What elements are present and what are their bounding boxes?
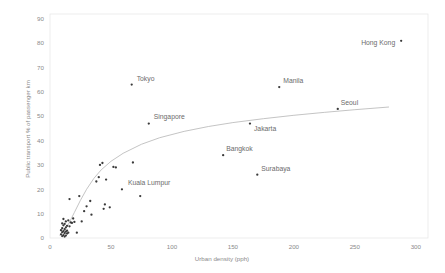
data-point xyxy=(61,227,63,229)
data-point xyxy=(63,223,65,225)
data-point xyxy=(63,228,65,230)
data-point xyxy=(109,206,111,208)
data-point xyxy=(81,220,83,222)
x-tick-label: 250 xyxy=(350,243,361,250)
data-point xyxy=(66,230,68,232)
data-point xyxy=(89,200,91,202)
y-tick-label: 60 xyxy=(37,88,44,95)
x-tick-label: 150 xyxy=(228,243,239,250)
data-point xyxy=(62,218,64,220)
data-point-singapore xyxy=(148,122,150,124)
y-axis-title: Public transport % of passenger km xyxy=(24,80,31,178)
data-point xyxy=(68,198,70,200)
y-tick-label: 20 xyxy=(37,186,44,193)
data-point xyxy=(99,164,101,166)
data-point xyxy=(132,161,134,163)
y-tick-label: 40 xyxy=(37,137,44,144)
point-label-kuala-lumpur: Kuala Lumpur xyxy=(128,179,171,187)
data-point xyxy=(85,205,87,207)
data-point xyxy=(65,234,67,236)
point-label-singapore: Singapore xyxy=(154,113,185,121)
data-point xyxy=(62,230,64,232)
x-tick-label: 200 xyxy=(289,243,300,250)
data-point xyxy=(67,219,69,221)
data-point xyxy=(71,222,73,224)
data-point xyxy=(115,166,117,168)
y-tick-label: 50 xyxy=(37,112,44,119)
data-point-surabaya xyxy=(256,174,258,176)
data-point-kuala-lumpur xyxy=(121,188,123,190)
x-tick-label: 0 xyxy=(48,243,52,250)
data-point xyxy=(61,222,63,224)
data-point xyxy=(78,195,80,197)
data-point-tokyo xyxy=(131,83,133,85)
y-tick-label: 80 xyxy=(37,39,44,46)
data-point xyxy=(60,229,62,231)
data-point xyxy=(83,210,85,212)
data-point xyxy=(104,203,106,205)
data-point xyxy=(66,225,68,227)
data-point-seoul xyxy=(337,108,339,110)
point-label-hong-kong: Hong Kong xyxy=(361,39,395,47)
data-point xyxy=(68,225,70,227)
point-label-surabaya: Surabaya xyxy=(261,165,290,173)
chart-figure: 0102030405060708090 050100150200250300 H… xyxy=(0,0,445,273)
y-tick-label: 10 xyxy=(37,210,44,217)
data-point xyxy=(65,220,67,222)
data-point xyxy=(105,178,107,180)
y-tick-label: 70 xyxy=(37,64,44,71)
data-point-hong-kong xyxy=(400,40,402,42)
point-label-manila: Manila xyxy=(283,77,303,84)
y-tick-label: 30 xyxy=(37,161,44,168)
data-point xyxy=(90,213,92,215)
data-point xyxy=(139,195,141,197)
data-point xyxy=(76,231,78,233)
x-tick-label: 300 xyxy=(411,243,422,250)
data-point xyxy=(95,180,97,182)
scatter-plot-canvas: 0102030405060708090 050100150200250300 H… xyxy=(0,0,445,273)
x-axis-title: Urban density (pph) xyxy=(195,255,249,262)
data-point-jakarta xyxy=(249,122,251,124)
data-point xyxy=(101,162,103,164)
y-tick-label: 0 xyxy=(41,234,45,241)
point-label-bangkok: Bangkok xyxy=(226,145,253,153)
data-point xyxy=(67,231,69,233)
point-label-tokyo: Tokyo xyxy=(137,75,155,83)
y-tick-label: 90 xyxy=(37,15,44,22)
x-tick-label: 100 xyxy=(167,243,178,250)
data-point xyxy=(73,221,75,223)
data-point-bangkok xyxy=(222,154,224,156)
data-point xyxy=(103,208,105,210)
data-point-manila xyxy=(278,86,280,88)
data-point xyxy=(98,176,100,178)
point-label-seoul: Seoul xyxy=(341,99,359,106)
point-label-jakarta: Jakarta xyxy=(254,125,277,132)
data-point xyxy=(112,166,114,168)
data-point xyxy=(72,217,74,219)
x-tick-label: 50 xyxy=(108,243,115,250)
